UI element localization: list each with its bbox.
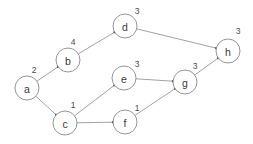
graph-canvas: abcdefgh 24133133 bbox=[0, 0, 253, 144]
graph-edge bbox=[77, 121, 114, 123]
graph-edge bbox=[75, 84, 116, 115]
node-label: g bbox=[182, 77, 188, 89]
graph-diagram: abcdefgh 24133133 bbox=[0, 0, 253, 144]
graph-node-f[interactable]: f bbox=[113, 110, 137, 134]
node-weight-label-b: 4 bbox=[71, 37, 76, 47]
edge-line bbox=[136, 79, 173, 81]
node-weight-label-c: 1 bbox=[71, 100, 76, 110]
node-label: d bbox=[122, 21, 128, 33]
graph-node-e[interactable]: e bbox=[112, 66, 136, 90]
node-weight-label-d: 3 bbox=[135, 6, 140, 16]
graph-edge bbox=[195, 57, 220, 75]
node-label: a bbox=[24, 83, 30, 95]
node-weight-label-h: 3 bbox=[236, 26, 241, 36]
node-label: b bbox=[65, 55, 71, 67]
graph-node-h[interactable]: h bbox=[216, 39, 240, 63]
node-label: h bbox=[225, 46, 231, 58]
graph-edge bbox=[78, 31, 115, 54]
graph-node-b[interactable]: b bbox=[56, 48, 80, 72]
node-weight-label-e: 3 bbox=[135, 59, 140, 69]
graph-node-d[interactable]: d bbox=[113, 14, 137, 38]
graph-edge bbox=[135, 88, 176, 116]
graph-edge bbox=[136, 79, 174, 82]
node-weight-label-f: 1 bbox=[135, 103, 140, 113]
graph-edge bbox=[137, 29, 218, 49]
graph-node-a[interactable]: a bbox=[15, 76, 39, 100]
node-label: c bbox=[62, 118, 67, 130]
node-weight-label-a: 2 bbox=[32, 65, 37, 75]
edge-line bbox=[37, 67, 58, 81]
graph-node-c[interactable]: c bbox=[53, 111, 77, 135]
edge-line bbox=[195, 58, 219, 75]
edge-line bbox=[77, 122, 113, 123]
graph-edge bbox=[37, 66, 59, 82]
graph-node-g[interactable]: g bbox=[173, 70, 197, 94]
edge-line bbox=[36, 96, 56, 115]
nodes-layer: abcdefgh bbox=[15, 14, 240, 135]
graph-edge bbox=[36, 96, 57, 116]
node-label: e bbox=[121, 73, 127, 85]
edge-line bbox=[137, 29, 217, 48]
edge-line bbox=[135, 89, 175, 116]
node-weight-label-g: 3 bbox=[193, 61, 198, 71]
edge-line bbox=[78, 32, 114, 54]
node-label: f bbox=[124, 117, 127, 129]
edge-line bbox=[75, 85, 115, 115]
